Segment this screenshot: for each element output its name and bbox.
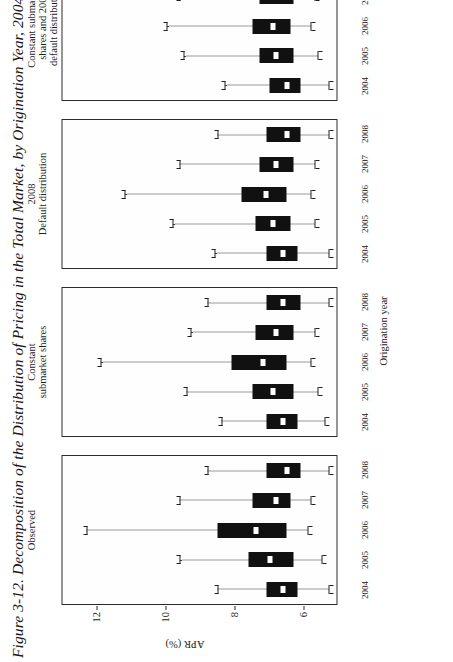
- whisker-line: [190, 332, 314, 333]
- box-iqr: [266, 127, 301, 142]
- median-marker: [270, 23, 275, 30]
- box-plot-2006: [62, 515, 336, 545]
- box-plot-2006: [62, 347, 336, 377]
- box-plot-2004: [62, 406, 336, 436]
- median-marker: [280, 418, 285, 425]
- whisker-cap-lower: [310, 358, 311, 367]
- whisker-cap-lower: [328, 249, 329, 258]
- x-tick-label: 2005: [359, 47, 369, 65]
- median-marker: [253, 527, 258, 534]
- median-marker: [270, 388, 275, 395]
- x-tick-label: 2004: [359, 413, 369, 431]
- box-plot-2004: [62, 238, 336, 268]
- panel-label: Observed: [25, 455, 36, 605]
- x-tick-label: 2007: [359, 0, 369, 5]
- median-marker: [273, 161, 278, 168]
- box-plot-2008: [62, 288, 336, 318]
- median-marker: [273, 329, 278, 336]
- whisker-cap-lower: [310, 190, 311, 199]
- whisker-cap-lower: [328, 81, 329, 90]
- median-marker: [263, 191, 268, 198]
- whisker-cap-lower: [321, 555, 322, 564]
- y-tick-mark: [234, 606, 235, 610]
- whisker-cap-upper: [179, 0, 180, 1]
- x-axis-ticks: 20042005200620072008: [359, 455, 375, 605]
- whisker-cap-upper: [207, 466, 208, 475]
- y-tick-label: 10: [159, 612, 170, 623]
- whisker-line: [172, 223, 313, 224]
- box-plot-2005: [62, 209, 336, 239]
- whisker-line: [179, 164, 314, 165]
- box-iqr: [231, 355, 286, 370]
- panel-label: Constant submarketshares and 2008default…: [25, 0, 58, 101]
- whisker-cap-upper: [124, 190, 125, 199]
- y-tick-label: 8: [228, 612, 239, 617]
- x-axis-ticks: 20042005200620072008: [359, 287, 375, 437]
- box-iqr: [259, 0, 294, 4]
- figure-title: Figure 3-12. Decomposition of the Distri…: [8, 8, 26, 658]
- box-plot-2004: [62, 574, 336, 604]
- box-plot-2006: [62, 11, 336, 41]
- median-marker: [270, 220, 275, 227]
- x-tick-label: 2007: [359, 491, 369, 509]
- box-plot-2007: [62, 318, 336, 348]
- panel-observed: Observed 20042005200620072008: [61, 455, 337, 605]
- median-marker: [280, 250, 285, 257]
- x-tick-label: 2008: [359, 461, 369, 479]
- box-plot-2005: [62, 377, 336, 407]
- x-axis-ticks: 20042005200620072008: [359, 0, 375, 101]
- whisker-cap-upper: [224, 81, 225, 90]
- x-tick-label: 2006: [359, 353, 369, 371]
- box-plot-2007: [62, 150, 336, 180]
- x-tick-label: 2007: [359, 323, 369, 341]
- x-tick-label: 2008: [359, 293, 369, 311]
- whisker-cap-upper: [86, 526, 87, 535]
- plot-frame: [61, 455, 337, 605]
- whisker-line: [183, 55, 318, 56]
- box-iqr: [266, 463, 301, 478]
- panel-label: Constantsubmarket shares: [25, 287, 47, 437]
- whisker-cap-lower: [307, 526, 308, 535]
- box-plot-2004: [62, 70, 336, 100]
- x-tick-label: 2004: [359, 77, 369, 95]
- y-tick-label: 12: [90, 612, 101, 623]
- whisker-cap-upper: [179, 555, 180, 564]
- y-tick-mark: [165, 606, 166, 610]
- panel-constant-submarket-shares: Constantsubmarket shares 200420052006200…: [61, 287, 337, 437]
- whisker-cap-lower: [310, 496, 311, 505]
- median-marker: [284, 131, 289, 138]
- whisker-cap-upper: [179, 496, 180, 505]
- box-iqr: [252, 493, 290, 508]
- whisker-cap-upper: [214, 249, 215, 258]
- box-plot-2007: [62, 486, 336, 516]
- whisker-cap-lower: [328, 130, 329, 139]
- box-plot-2005: [62, 545, 336, 575]
- x-tick-label: 2005: [359, 215, 369, 233]
- x-tick-label: 2004: [359, 581, 369, 599]
- whisker-cap-upper: [221, 417, 222, 426]
- whisker-cap-lower: [324, 417, 325, 426]
- whisker-cap-lower: [310, 22, 311, 31]
- y-tick-mark: [96, 606, 97, 610]
- x-tick-label: 2006: [359, 185, 369, 203]
- panel-constant-shares-and-2008-default: Constant submarketshares and 2008default…: [61, 0, 337, 101]
- whisker-cap-upper: [166, 22, 167, 31]
- x-axis-title: Origination year: [377, 0, 388, 662]
- box-plot-2005: [62, 41, 336, 71]
- whisker-line: [179, 500, 310, 501]
- whisker-cap-lower: [317, 51, 318, 60]
- box-plot-2008: [62, 120, 336, 150]
- median-marker: [273, 497, 278, 504]
- whisker-cap-lower: [328, 298, 329, 307]
- whisker-cap-lower: [328, 466, 329, 475]
- whisker-cap-upper: [186, 387, 187, 396]
- box-iqr: [217, 523, 286, 538]
- whisker-cap-upper: [217, 130, 218, 139]
- x-tick-label: 2007: [359, 155, 369, 173]
- panel-2008-default-distribution: 2008Default distribution 200420052006200…: [61, 119, 337, 269]
- median-marker: [284, 467, 289, 474]
- median-marker: [280, 299, 285, 306]
- whisker-cap-lower: [314, 219, 315, 228]
- whisker-cap-lower: [328, 585, 329, 594]
- y-axis: 681012: [61, 606, 337, 634]
